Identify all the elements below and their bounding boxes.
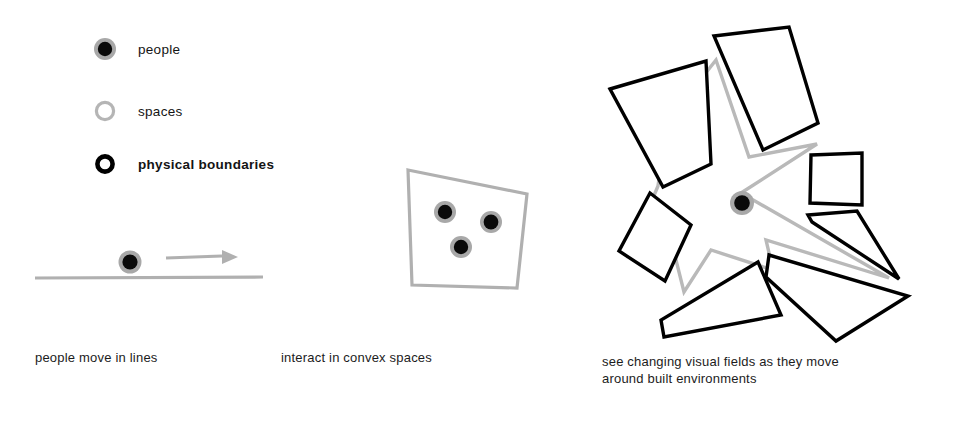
- building-block: [810, 153, 862, 205]
- legend-label-people: people: [138, 42, 180, 57]
- panel-people-move-in-lines: people move in lines: [35, 250, 263, 365]
- space-syntax-diagram: people spaces physical boundaries people…: [0, 0, 972, 423]
- convex-space-polygon: [408, 170, 527, 288]
- legend-item-boundaries: physical boundaries: [97, 156, 274, 172]
- arrow-head-icon: [222, 250, 238, 264]
- arrow-of-movement: [166, 250, 238, 264]
- person-observer: [730, 191, 754, 215]
- legend-item-people: people: [94, 38, 180, 60]
- person-on-line: [119, 251, 142, 274]
- people-marker-icon: [98, 42, 112, 56]
- caption-panel-visual-fields-line1: see changing visual fields as they move: [602, 354, 839, 369]
- person-icon: [454, 240, 468, 254]
- legend: people spaces physical boundaries: [94, 38, 274, 172]
- caption-panel-convex: interact in convex spaces: [281, 350, 432, 365]
- person-icon: [484, 215, 499, 230]
- person-icon: [734, 195, 750, 211]
- axial-line: [35, 277, 263, 278]
- person-icon: [122, 254, 137, 269]
- panel-visual-fields: see changing visual fields as they move …: [602, 27, 908, 386]
- legend-label-spaces: spaces: [138, 104, 183, 119]
- legend-label-boundaries: physical boundaries: [138, 157, 274, 172]
- person-icon: [438, 205, 452, 219]
- panel-convex-spaces: interact in convex spaces: [281, 170, 527, 365]
- arrow-shaft: [166, 256, 222, 258]
- caption-panel-visual-fields-line2: around built environments: [602, 371, 757, 386]
- legend-item-spaces: spaces: [96, 102, 182, 119]
- building-block: [610, 61, 711, 187]
- caption-panel-lines: people move in lines: [35, 350, 158, 365]
- boundaries-marker-icon: [97, 156, 112, 171]
- spaces-marker-icon: [96, 102, 113, 119]
